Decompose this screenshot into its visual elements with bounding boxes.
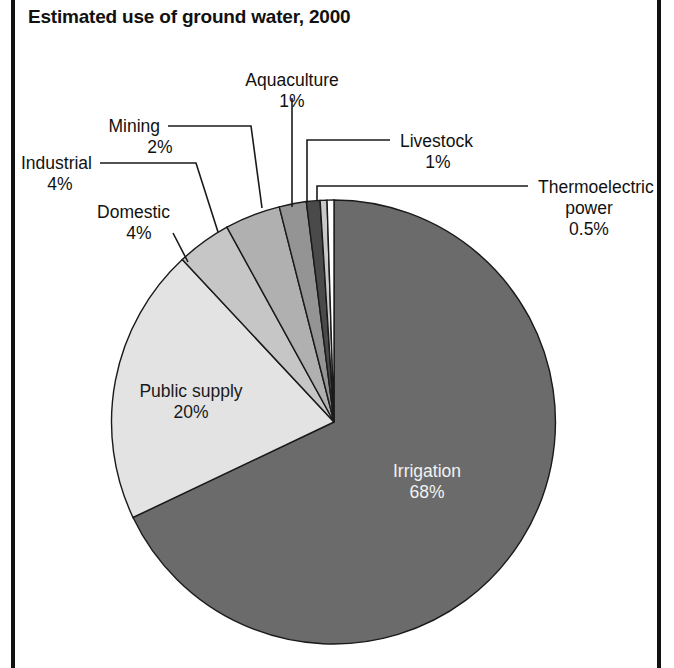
callout-thermoelectric-name-line2: power (565, 198, 613, 218)
callout-mining-pct: 2% (147, 137, 172, 157)
callout-livestock-pct: 1% (425, 152, 450, 172)
callout-livestock-name: Livestock (400, 131, 473, 151)
page-title: Estimated use of ground water, 2000 (28, 6, 350, 27)
callout-thermoelectric-name-line1: Thermoelectric (538, 177, 654, 197)
callout-aquaculture-pct: 1% (279, 91, 304, 111)
ground-water-use-pie-figure: Estimated use of ground water, 2000 (0, 0, 674, 668)
callout-domestic-name: Domestic (97, 202, 170, 222)
callout-domestic-pct: 4% (126, 223, 151, 243)
callout-mining-name: Mining (108, 116, 160, 136)
slice-label-public-supply-pct: 20% (173, 402, 208, 422)
slice-label-irrigation-name: Irrigation (393, 461, 461, 481)
callout-thermoelectric-pct: 0.5% (569, 219, 609, 239)
callout-aquaculture-name: Aquaculture (245, 70, 338, 90)
slice-label-irrigation-pct: 68% (409, 482, 444, 502)
slice-label-public-supply-name: Public supply (139, 381, 242, 401)
callout-industrial-pct: 4% (47, 174, 72, 194)
callout-industrial-name: Industrial (21, 153, 92, 173)
